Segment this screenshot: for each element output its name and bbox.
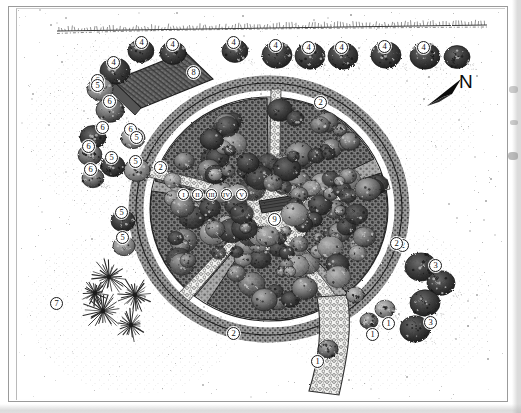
marker-1-a: 1 (382, 317, 395, 330)
marker-4-g: 4 (378, 40, 391, 53)
marker-1-c: 1 (311, 355, 324, 368)
marker-2-a: 2 (314, 96, 327, 109)
marker-2-d: 2 (227, 327, 240, 340)
roman-marker-ii: II (192, 189, 203, 200)
marker-5-f: 5 (116, 231, 129, 244)
marker-8: 8 (187, 66, 200, 79)
marker-2-e: 2 (390, 237, 403, 250)
marker-5-c: 5 (105, 151, 118, 164)
marker-5-a: 5 (91, 79, 104, 92)
roman-marker-iii: III (206, 189, 217, 200)
marker-1-b: 1 (366, 328, 379, 341)
marker-6-b: 6 (103, 95, 116, 108)
marker-3-a: 3 (429, 259, 442, 272)
marker-4-b: 4 (166, 38, 179, 51)
marker-4-i: 4 (107, 56, 120, 69)
north-label: N (459, 71, 473, 93)
scan-artifact-3 (508, 152, 518, 160)
shrubs-and-trees (17, 9, 504, 399)
marker-6-e: 6 (82, 140, 95, 153)
marker-9: 9 (268, 213, 281, 226)
garden-plan-artwork: 4444444446666665555558922222331117 IIIII… (17, 9, 504, 399)
marker-7: 7 (50, 297, 63, 310)
scan-edge-right (512, 0, 521, 413)
marker-4-h: 4 (417, 41, 430, 54)
roman-marker-v: V (236, 189, 247, 200)
marker-5-d: 5 (129, 155, 142, 168)
scan-edge-bottom (0, 404, 521, 413)
marker-4-a: 4 (135, 36, 148, 49)
roman-marker-i: I (178, 189, 189, 200)
scan-artifact-1 (509, 86, 518, 93)
marker-4-d: 4 (269, 39, 282, 52)
marker-4-f: 4 (335, 41, 348, 54)
roman-marker-iv: IV (221, 189, 232, 200)
marker-4-c: 4 (227, 36, 240, 49)
scan-artifact-2 (510, 120, 518, 125)
marker-4-e: 4 (302, 41, 315, 54)
marker-6-f: 6 (84, 163, 97, 176)
north-arrow: N (425, 75, 481, 113)
marker-6-c: 6 (96, 121, 109, 134)
marker-3-b: 3 (424, 316, 437, 329)
yucca-clump (83, 259, 151, 342)
marker-5-e: 5 (115, 206, 128, 219)
illustration-page: 4444444446666665555558922222331117 IIIII… (0, 0, 521, 413)
marker-5-b: 5 (130, 131, 143, 144)
marker-2-b: 2 (154, 161, 167, 174)
